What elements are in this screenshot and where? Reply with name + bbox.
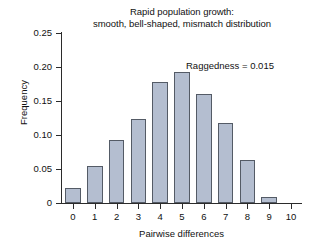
x-tick-label: 6 [193, 211, 215, 222]
x-tick-mark [204, 204, 205, 209]
x-tick-label: 4 [149, 211, 171, 222]
bar-0 [65, 188, 81, 203]
bar-4 [152, 82, 168, 203]
bar-3 [131, 119, 147, 203]
bar-1 [87, 166, 103, 203]
y-tick-mark [56, 135, 61, 136]
x-tick-mark [269, 204, 270, 209]
x-tick-mark [138, 204, 139, 209]
x-tick-mark [226, 204, 227, 209]
x-axis-title: Pairwise differences [61, 228, 302, 239]
y-tick-label: 0 [10, 197, 52, 208]
y-tick-label: 0.10 [10, 129, 52, 140]
bar-5 [174, 72, 190, 203]
bar-7 [218, 123, 234, 203]
x-tick-mark [160, 204, 161, 209]
bar-2 [109, 140, 125, 203]
chart-title: Rapid population growth: smooth, bell-sh… [46, 6, 318, 29]
x-tick-label: 2 [106, 211, 128, 222]
x-tick-label: 0 [62, 211, 84, 222]
x-tick-label: 7 [215, 211, 237, 222]
bar-9 [261, 197, 277, 203]
x-tick-label: 9 [258, 211, 280, 222]
y-tick-mark [56, 33, 61, 34]
y-tick-mark [56, 203, 61, 204]
x-tick-mark [95, 204, 96, 209]
x-tick-mark [73, 204, 74, 209]
x-tick-label: 3 [127, 211, 149, 222]
y-tick-mark [56, 169, 61, 170]
x-tick-mark [247, 204, 248, 209]
y-tick-label: 0.20 [10, 61, 52, 72]
y-tick-mark [56, 101, 61, 102]
y-tick-label: 0.15 [10, 95, 52, 106]
x-tick-label: 8 [236, 211, 258, 222]
bar-8 [240, 160, 256, 203]
x-tick-mark [291, 204, 292, 209]
chart-figure: Rapid population growth: smooth, bell-sh… [0, 0, 324, 249]
y-tick-label: 0.05 [10, 163, 52, 174]
chart-title-line-2: smooth, bell-shaped, mismatch distributi… [46, 18, 318, 30]
y-tick-mark [56, 67, 61, 68]
y-tick-label: 0.25 [10, 27, 52, 38]
plot-area [62, 33, 302, 203]
x-tick-label: 5 [171, 211, 193, 222]
x-tick-mark [182, 204, 183, 209]
x-tick-mark [117, 204, 118, 209]
x-tick-label: 1 [84, 211, 106, 222]
bar-6 [196, 94, 212, 203]
x-tick-label: 10 [280, 211, 302, 222]
chart-title-line-1: Rapid population growth: [46, 6, 318, 18]
